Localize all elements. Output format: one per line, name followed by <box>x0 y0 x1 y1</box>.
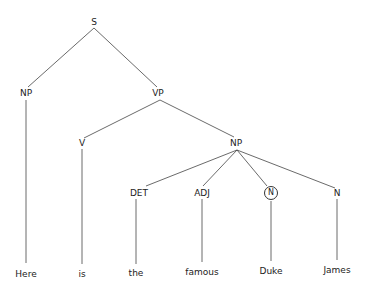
node-det: DET <box>130 189 148 198</box>
word-duke: Duke <box>259 267 282 276</box>
node-adj: ADJ <box>194 189 210 198</box>
node-np-object: NP <box>230 139 242 148</box>
node-vp: VP <box>152 89 164 98</box>
node-s: S <box>91 18 97 27</box>
node-n-circled: N <box>264 186 278 200</box>
tree-edge <box>160 100 234 137</box>
node-np-subject: NP <box>20 89 32 98</box>
node-v: V <box>79 139 85 148</box>
syntax-tree-edges <box>0 0 368 290</box>
tree-edge <box>203 150 237 186</box>
word-is: is <box>78 270 85 279</box>
word-here: Here <box>15 270 36 279</box>
tree-edge <box>146 150 237 186</box>
word-the: the <box>129 269 144 278</box>
tree-edge <box>84 100 160 138</box>
tree-edge <box>94 28 157 87</box>
tree-edge <box>237 150 335 188</box>
tree-edge <box>28 28 94 87</box>
node-n-head: N <box>334 189 341 198</box>
word-james: James <box>323 266 350 275</box>
word-famous: famous <box>185 268 218 277</box>
